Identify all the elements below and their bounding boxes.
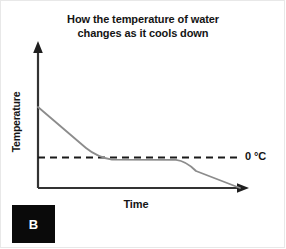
y-axis-arrow-icon xyxy=(33,41,43,53)
figure-panel: How the temperature of water changes as … xyxy=(0,0,286,249)
cooling-curve-line xyxy=(38,107,240,188)
figure-label-badge: B xyxy=(12,205,55,243)
y-axis-label: Temperature xyxy=(10,84,22,160)
x-axis-label: Time xyxy=(92,198,180,210)
freezing-point-label: 0 °C xyxy=(245,150,266,162)
figure-label-letter: B xyxy=(29,217,38,232)
